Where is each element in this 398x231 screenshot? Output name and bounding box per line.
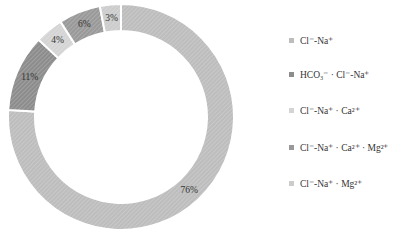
legend-label: Cl⁻-Na⁺ · Ca²⁺	[300, 105, 360, 116]
data-label: 6%	[78, 19, 91, 29]
data-label: 76%	[180, 185, 198, 195]
legend-label: HCO₃⁻ · Cl⁻-Na⁺	[300, 69, 370, 80]
data-label: 11%	[21, 72, 38, 82]
legend-item: Cl⁻-Na⁺	[289, 35, 333, 46]
legend-marker	[289, 72, 294, 77]
legend-item: Cl⁻-Na⁺ · Ca²⁺	[289, 105, 360, 116]
legend-label: Cl⁻-Na⁺ · Mg²⁺	[300, 178, 362, 189]
data-label: 4%	[51, 35, 64, 45]
legend-marker	[289, 181, 294, 186]
legend-label: Cl⁻-Na⁺ · Ca²⁺ · Mg²⁺	[300, 142, 389, 153]
legend-marker	[289, 108, 294, 113]
legend-marker	[289, 145, 294, 150]
legend-label: Cl⁻-Na⁺	[300, 35, 333, 46]
data-label: 3%	[105, 13, 118, 23]
legend-item: Cl⁻-Na⁺ · Ca²⁺ · Mg²⁺	[289, 142, 389, 153]
legend-marker	[289, 38, 294, 43]
legend-item: Cl⁻-Na⁺ · Mg²⁺	[289, 178, 362, 189]
legend-item: HCO₃⁻ · Cl⁻-Na⁺	[289, 69, 370, 80]
